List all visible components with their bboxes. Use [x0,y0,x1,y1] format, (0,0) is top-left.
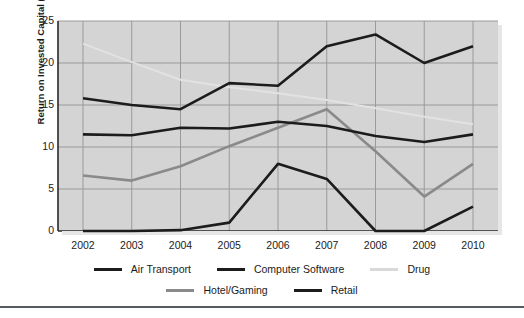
x-tick-label: 2008 [354,239,398,251]
legend-label: Air Transport [131,263,191,275]
x-tick-label: 2003 [110,239,154,251]
legend-item-computer-software[interactable]: Computer Software [217,263,344,275]
x-tick-label: 2005 [207,239,251,251]
legend-swatch [94,268,122,271]
legend-label: Hotel/Gaming [203,284,267,296]
x-tick-label: 2002 [61,239,105,251]
legend-item-hotel-gaming[interactable]: Hotel/Gaming [166,284,267,296]
legend-swatch [370,268,398,271]
legend-row: Hotel/GamingRetail [0,284,524,296]
chart-figure: Return on Invested Capital (%) 051015202… [0,0,524,318]
figure-bottom-rule [0,306,524,308]
legend-item-drug[interactable]: Drug [370,263,430,275]
legend-row: Air TransportComputer SoftwareDrug [0,263,524,275]
x-tick-label: 2007 [305,239,349,251]
legend-item-air-transport[interactable]: Air Transport [94,263,191,275]
legend-item-retail[interactable]: Retail [294,284,358,296]
legend-swatch [217,268,245,271]
legend-swatch [166,289,194,292]
legend-swatch [294,289,322,292]
x-tick-label: 2010 [451,239,495,251]
plot-shadow-right [498,25,502,235]
legend-label: Computer Software [254,263,344,275]
chart-legend: Air TransportComputer SoftwareDrugHotel/… [0,263,524,296]
x-tick-label: 2006 [256,239,300,251]
legend-label: Retail [331,284,358,296]
x-tick-label: 2004 [159,239,203,251]
x-tick-label: 2009 [402,239,446,251]
legend-label: Drug [407,263,430,275]
